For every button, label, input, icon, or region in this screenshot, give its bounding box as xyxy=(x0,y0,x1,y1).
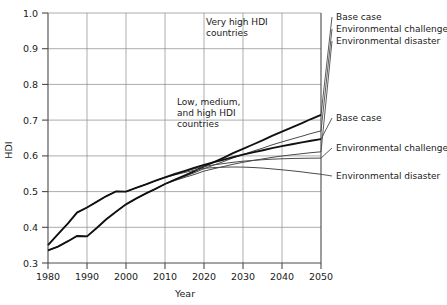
y-tick-marks xyxy=(42,13,48,263)
x-tick-label-2030: 2030 xyxy=(231,271,255,282)
legend-lower-label-environmental-challenge: Environmental challenge xyxy=(336,143,447,153)
annotation-very-high-hdi: Very high HDI countries xyxy=(206,17,268,38)
x-tick-label-2040: 2040 xyxy=(270,271,294,282)
x-axis-title: Year xyxy=(174,288,195,299)
vertical-gridlines xyxy=(87,13,282,263)
annotation-very-high-hdi-line1: Very high HDI xyxy=(206,17,268,27)
x-tick-label-1980: 1980 xyxy=(36,271,60,282)
legend-lower-label-environmental-disaster: Environmental disaster xyxy=(336,171,441,181)
legend-lower-leader-challenge xyxy=(321,148,332,158)
y-tick-label-0.7: 0.7 xyxy=(23,115,38,126)
x-tick-label-1990: 1990 xyxy=(75,271,99,282)
series-group-very-high-hdi xyxy=(48,115,321,251)
lower-base-case-line xyxy=(48,139,321,245)
x-tick-labels: 1980 1990 2000 2010 2020 2030 2040 2050 xyxy=(36,271,333,282)
y-axis-title: HDI xyxy=(3,141,14,158)
annotation-low-medium-high-hdi-line1: Low, medium, xyxy=(177,97,240,107)
y-tick-label-0.5: 0.5 xyxy=(23,186,38,197)
y-tick-label-0.9: 0.9 xyxy=(23,43,38,54)
legend-upper-label-environmental-disaster: Environmental disaster xyxy=(336,36,441,46)
annotation-very-high-hdi-line2: countries xyxy=(206,28,248,38)
series-group-low-medium-high-hdi xyxy=(48,139,321,245)
annotation-low-medium-high-hdi-line2: and high HDI xyxy=(177,108,236,118)
upper-environmental-challenge-line xyxy=(48,131,321,251)
annotation-low-medium-high-hdi: Low, medium, and high HDI countries xyxy=(177,97,240,129)
y-tick-label-0.8: 0.8 xyxy=(23,79,38,90)
hdi-projection-chart: 1.0 0.9 0.8 0.7 0.6 0.5 0.4 0.3 1980 199… xyxy=(0,0,447,305)
y-tick-label-0.3: 0.3 xyxy=(23,258,38,269)
annotation-low-medium-high-hdi-line3: countries xyxy=(177,119,219,129)
legend-upper: Base case Environmental challenge Enviro… xyxy=(321,12,447,152)
legend-upper-label-base-case: Base case xyxy=(336,12,382,22)
chart-svg: 1.0 0.9 0.8 0.7 0.6 0.5 0.4 0.3 1980 199… xyxy=(0,0,447,305)
x-tick-marks xyxy=(48,263,321,269)
plot-frame xyxy=(48,13,321,263)
legend-upper-leader-challenge xyxy=(321,29,332,131)
legend-upper-label-environmental-challenge: Environmental challenge xyxy=(336,24,447,34)
legend-lower-leader-base xyxy=(321,118,332,139)
y-tick-label-0.6: 0.6 xyxy=(23,150,38,161)
x-tick-label-2050: 2050 xyxy=(309,271,333,282)
y-tick-labels: 1.0 0.9 0.8 0.7 0.6 0.5 0.4 0.3 xyxy=(23,8,38,269)
x-tick-label-2010: 2010 xyxy=(153,271,177,282)
legend-lower-leader-disaster xyxy=(321,174,332,176)
x-tick-label-2000: 2000 xyxy=(114,271,138,282)
y-tick-label-0.4: 0.4 xyxy=(23,222,38,233)
upper-base-case-line xyxy=(48,115,321,251)
legend-lower-label-base-case: Base case xyxy=(336,113,382,123)
x-tick-label-2020: 2020 xyxy=(192,271,216,282)
y-tick-label-1.0: 1.0 xyxy=(23,8,38,19)
legend-lower: Base case Environmental challenge Enviro… xyxy=(321,113,447,181)
